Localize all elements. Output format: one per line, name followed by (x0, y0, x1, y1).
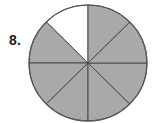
pie-chart-graphic (0, 0, 156, 123)
pie-figure-container: 8. (0, 0, 156, 123)
